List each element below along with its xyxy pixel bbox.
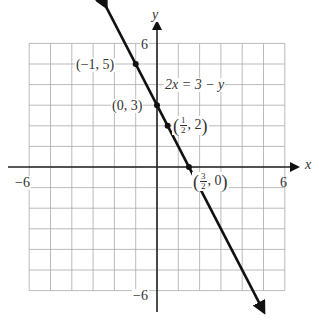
equation-line	[106, 6, 264, 311]
y-tick-max: 6	[140, 38, 149, 52]
point-label-neg1-5: (−1, 5)	[75, 58, 115, 72]
y-axis-label: y	[151, 8, 159, 22]
equation-label: 2x = 3 − y	[164, 78, 225, 92]
x-tick-max: 6	[279, 176, 288, 190]
data-point	[186, 164, 192, 170]
data-point	[154, 102, 160, 108]
data-point	[133, 61, 139, 67]
coordinate-plane	[0, 0, 319, 320]
data-point	[165, 123, 171, 129]
x-axis-label: x	[304, 158, 312, 172]
point-label-three-halves-0: (32, 0)	[192, 172, 229, 191]
point-label-0-3: (0, 3)	[111, 99, 143, 113]
x-tick-min: −6	[14, 176, 31, 190]
y-tick-min: −6	[132, 289, 149, 303]
point-label-half-2: (12, 2)	[172, 116, 209, 135]
